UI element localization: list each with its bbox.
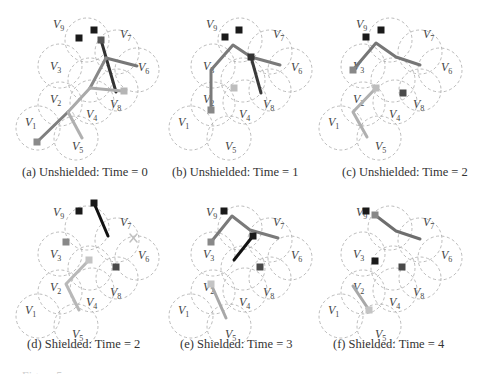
label-v4: V4 [239,295,250,311]
label-v1: V1 [328,115,339,131]
label-v3: V3 [353,247,364,263]
caption-a: (a) Unshielded: Time = 0 [22,165,148,180]
label-v6: V6 [138,60,149,76]
coverage-circle [16,294,60,338]
panel-b: V9V7V3V6V2V8V4V1V5 [169,17,312,160]
coverage-circle [169,294,213,338]
label-v7: V7 [120,215,131,231]
node-square [400,90,407,97]
node-square [208,281,215,288]
route-edge [106,58,137,66]
node-square [208,107,215,114]
label-v6: V6 [291,248,302,264]
coverage-circle [169,106,213,150]
coverage-circle [319,294,363,338]
coverage-circle [115,48,159,92]
node-square [372,212,379,219]
label-v6: V6 [441,60,452,76]
node-square [248,54,255,61]
caption-e: (e) Shielded: Time = 3 [180,337,293,352]
node-square [208,239,215,246]
cut-off-caption-text: Figure 5: ... [0,366,480,374]
label-v1: V1 [328,303,339,319]
label-v6: V6 [138,248,149,264]
coverage-circle [418,236,462,280]
label-v7: V7 [120,27,131,43]
label-v8: V8 [110,285,121,301]
label-v9: V9 [53,17,64,33]
coverage-circle [368,18,412,62]
node-square [250,233,257,240]
node-square [91,200,98,207]
node-square [76,35,83,42]
label-v2: V2 [50,280,61,296]
panel-a: V9V7V3V6V2V8V4V1V5 [16,17,159,160]
route-edge [90,88,122,91]
label-v7: V7 [273,215,284,231]
label-v7: V7 [273,27,284,43]
route-edge [94,203,108,236]
node-square [366,307,373,314]
node-square [222,34,229,41]
node-square [34,139,41,146]
node-square [236,27,243,34]
coverage-circle [54,116,98,160]
coverage-circle [268,48,312,92]
coverage-circle [248,218,292,262]
label-v9: V9 [206,17,217,33]
label-v5: V5 [375,139,386,155]
label-v2: V2 [203,92,214,108]
node-square [98,37,105,44]
label-v8: V8 [110,97,121,113]
label-v4: V4 [86,107,97,123]
label-v8: V8 [413,97,424,113]
node-square [363,208,370,215]
label-v1: V1 [178,303,189,319]
caption-f: (f) Shielded: Time = 4 [333,337,444,352]
panel-d: V9V7V3V6V2V8V4V1V5 [16,200,159,349]
caption-d: (d) Shielded: Time = 2 [27,337,140,352]
label-v1: V1 [178,115,189,131]
label-v2: V2 [50,92,61,108]
label-v8: V8 [263,285,274,301]
coverage-circle [398,30,442,74]
label-v6: V6 [441,248,452,264]
figure-canvas: V9V7V3V6V2V8V4V1V5V9V7V3V6V2V8V4V1V5V9V7… [0,0,480,374]
label-v9: V9 [53,205,64,221]
caption-b: (b) Unshielded: Time = 1 [172,165,299,180]
node-square [257,264,264,271]
label-v4: V4 [389,107,400,123]
label-v8: V8 [263,97,274,113]
node-square [378,27,385,34]
node-square [372,258,379,265]
label-v9: V9 [206,205,217,221]
label-v4: V4 [239,107,250,123]
route-edge [375,215,420,239]
coverage-circle [319,106,363,150]
label-v3: V3 [203,247,214,263]
node-square [63,239,70,246]
coverage-circle [268,236,312,280]
node-square [399,264,406,271]
coverage-circle [418,48,462,92]
label-v5: V5 [72,139,83,155]
coverage-circle [357,116,401,160]
label-v1: V1 [25,115,36,131]
node-square [113,264,120,271]
coverage-circle [65,206,109,250]
node-square [121,88,128,95]
node-square [221,208,228,215]
node-square [231,85,238,92]
caption-c: (c) Unshielded: Time = 2 [342,165,468,180]
route-edge [234,236,253,260]
panel-e: V9V7V3V6V2V8V4V1V5 [169,205,312,348]
label-v7: V7 [423,27,434,43]
node-square [373,85,380,92]
panel-f: V9V7V3V6V2V8V4V1V5 [319,205,462,348]
node-square [91,27,98,34]
node-square [363,34,370,41]
label-v6: V6 [291,60,302,76]
node-square [350,67,357,74]
node-square [76,208,83,215]
node-square [86,257,93,264]
